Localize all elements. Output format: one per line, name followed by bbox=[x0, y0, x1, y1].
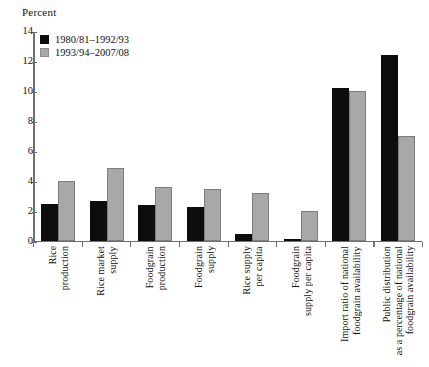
bar-group bbox=[41, 32, 75, 241]
plot-area: 02468101214 bbox=[33, 32, 422, 242]
y-tick-label-8: 8 bbox=[11, 116, 33, 126]
y-tick-label-4: 4 bbox=[11, 176, 33, 186]
bar-group bbox=[381, 32, 415, 241]
x-category: Rice production bbox=[36, 246, 80, 364]
bar bbox=[332, 88, 349, 241]
y-tick-label-wrap-0: 0 bbox=[0, 236, 33, 237]
bar bbox=[349, 91, 366, 241]
bar bbox=[107, 168, 124, 242]
x-category-label: Foodgrain supply per capita bbox=[290, 246, 313, 316]
bar-group bbox=[138, 32, 172, 241]
y-tick-label-2: 2 bbox=[11, 206, 33, 216]
bar-group bbox=[90, 32, 124, 241]
x-category-label: Import ratio of national foodgrain avail… bbox=[339, 246, 362, 342]
x-category: Foodgrain supply bbox=[182, 246, 226, 364]
y-tick-label-wrap-8: 8 bbox=[0, 116, 33, 117]
x-category-label: Foodgrain production bbox=[144, 246, 167, 290]
bar-group bbox=[187, 32, 221, 241]
bar bbox=[90, 201, 107, 242]
x-category: Public distribution as a percentage of n… bbox=[377, 246, 421, 364]
x-category: Import ratio of national foodgrain avail… bbox=[328, 246, 372, 364]
y-tick-label-6: 6 bbox=[11, 146, 33, 156]
y-tick-label-10: 10 bbox=[11, 86, 33, 96]
y-tick-label-wrap-12: 12 bbox=[0, 56, 33, 57]
x-category-label: Rice production bbox=[47, 246, 70, 290]
x-category-label: Foodgrain supply bbox=[193, 246, 216, 288]
x-axis-category-labels: Rice productionRice market supplyFoodgra… bbox=[34, 246, 423, 364]
x-category-label: Rice supply per capita bbox=[241, 246, 264, 295]
x-category: Rice supply per capita bbox=[231, 246, 275, 364]
y-tick-label-0: 0 bbox=[11, 236, 33, 246]
bar-group bbox=[235, 32, 269, 241]
y-tick-label-wrap-2: 2 bbox=[0, 206, 33, 207]
bar bbox=[187, 207, 204, 242]
bar bbox=[138, 205, 155, 241]
bar-groups bbox=[34, 32, 422, 241]
bar bbox=[235, 234, 252, 242]
x-category-label: Rice market supply bbox=[95, 246, 118, 296]
x-category: Rice market supply bbox=[85, 246, 129, 364]
x-category: Foodgrain supply per capita bbox=[279, 246, 323, 364]
bar bbox=[252, 193, 269, 241]
y-tick-label-wrap-10: 10 bbox=[0, 86, 33, 87]
y-tick-label-wrap-6: 6 bbox=[0, 146, 33, 147]
x-category-label: Public distribution as a percentage of n… bbox=[381, 246, 416, 355]
x-category: Foodgrain production bbox=[134, 246, 178, 364]
bar bbox=[41, 204, 58, 242]
y-tick-label-wrap-14: 14 bbox=[0, 26, 33, 27]
y-tick-label-wrap-4: 4 bbox=[0, 176, 33, 177]
y-axis-title: Percent bbox=[22, 6, 56, 18]
bar bbox=[398, 136, 415, 241]
bar bbox=[301, 211, 318, 241]
bar bbox=[204, 189, 221, 242]
bar-group bbox=[284, 32, 318, 241]
y-tick-label-14: 14 bbox=[11, 26, 33, 36]
bar-chart: Percent 1980/81–1992/93 1993/94–2007/08 … bbox=[0, 0, 429, 367]
bar bbox=[58, 181, 75, 241]
bar-group bbox=[332, 32, 366, 241]
bar bbox=[381, 55, 398, 241]
bar bbox=[155, 187, 172, 241]
y-tick-label-12: 12 bbox=[11, 56, 33, 66]
bar bbox=[284, 239, 301, 241]
